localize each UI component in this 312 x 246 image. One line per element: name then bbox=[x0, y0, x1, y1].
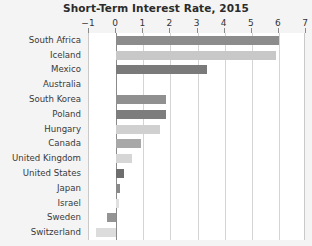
x-axis: −101234567 bbox=[88, 20, 305, 33]
x-tick-label: 5 bbox=[248, 18, 254, 28]
bar bbox=[116, 36, 279, 45]
bar bbox=[116, 125, 159, 134]
bar bbox=[116, 51, 276, 60]
bar bbox=[116, 154, 132, 163]
category-label: Switzerland bbox=[31, 228, 81, 237]
x-tick-label: 2 bbox=[167, 18, 173, 28]
category-label: Japan bbox=[57, 184, 81, 193]
plot-area bbox=[88, 33, 305, 240]
category-label: Hungary bbox=[44, 125, 81, 134]
chart-root: Short-Term Interest Rate, 2015 −10123456… bbox=[0, 0, 312, 246]
category-label: Mexico bbox=[51, 65, 81, 74]
chart-title: Short-Term Interest Rate, 2015 bbox=[0, 2, 312, 14]
bar bbox=[116, 65, 207, 74]
x-tick-label: 0 bbox=[112, 18, 118, 28]
bar bbox=[96, 228, 116, 237]
category-label: United States bbox=[23, 169, 81, 178]
category-label: Iceland bbox=[50, 51, 81, 60]
category-label: United Kingdom bbox=[12, 154, 81, 163]
x-tick-label: 3 bbox=[194, 18, 200, 28]
bar bbox=[116, 169, 124, 178]
category-label: South Africa bbox=[29, 36, 81, 45]
x-tick-label: 4 bbox=[221, 18, 227, 28]
bar bbox=[116, 110, 166, 119]
x-tick-label: 7 bbox=[302, 18, 308, 28]
bar bbox=[116, 184, 120, 193]
category-axis-labels: South AfricaIcelandMexicoAustraliaSouth … bbox=[0, 33, 85, 240]
category-label: Israel bbox=[58, 199, 82, 208]
bar-series bbox=[89, 33, 304, 240]
x-tick bbox=[305, 28, 306, 33]
bar bbox=[107, 213, 116, 222]
category-label: Sweden bbox=[47, 213, 81, 222]
bar bbox=[116, 95, 166, 104]
category-label: Australia bbox=[43, 80, 81, 89]
category-label: Poland bbox=[52, 110, 81, 119]
x-tick-label: 1 bbox=[139, 18, 145, 28]
category-label: South Korea bbox=[29, 95, 81, 104]
category-label: Canada bbox=[48, 139, 81, 148]
x-tick-label: −1 bbox=[81, 18, 94, 28]
x-tick-label: 6 bbox=[275, 18, 281, 28]
bar bbox=[116, 139, 140, 148]
bar bbox=[116, 199, 119, 208]
